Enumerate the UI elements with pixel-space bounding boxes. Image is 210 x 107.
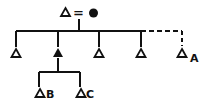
child-1-triangle-icon bbox=[12, 49, 21, 57]
marriage-equals: = bbox=[73, 5, 84, 20]
label-a: A bbox=[190, 52, 199, 65]
grandchild-b-triangle-icon bbox=[36, 89, 45, 97]
kinship-diagram: = A B C bbox=[0, 0, 210, 107]
ego-filled-triangle-icon bbox=[53, 48, 63, 57]
husband-triangle-icon bbox=[61, 8, 70, 16]
child-3-triangle-icon bbox=[95, 49, 104, 57]
child-a-triangle-icon bbox=[178, 49, 187, 57]
child-4-triangle-icon bbox=[137, 49, 146, 57]
label-c: C bbox=[86, 88, 94, 101]
wife-circle-icon bbox=[89, 9, 98, 18]
grandchild-c-triangle-icon bbox=[77, 89, 86, 97]
label-b: B bbox=[46, 88, 54, 101]
